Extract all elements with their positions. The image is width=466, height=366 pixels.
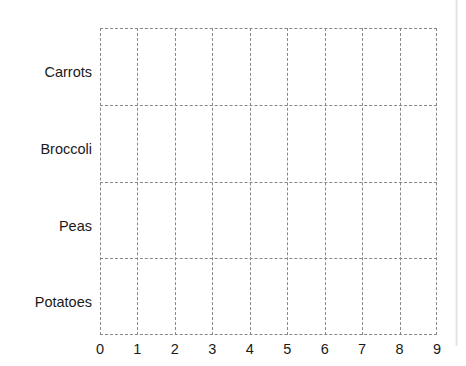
plot-area [100, 28, 437, 335]
x-tick-label-9: 9 [417, 340, 457, 358]
x-tick-label-2: 2 [155, 340, 195, 358]
x-tick-label-0: 0 [80, 340, 120, 358]
x-tick-label-1: 1 [117, 340, 157, 358]
right-edge-scroll-strip[interactable] [455, 0, 458, 346]
bar-track-potatoes [100, 258, 437, 335]
x-tick-label-4: 4 [230, 340, 270, 358]
y-tick-label-peas: Peas [0, 218, 92, 234]
x-tick-label-5: 5 [267, 340, 307, 358]
x-tick-label-8: 8 [380, 340, 420, 358]
y-tick-label-carrots: Carrots [0, 64, 92, 80]
x-tick-label-7: 7 [342, 340, 382, 358]
bar-track-carrots [100, 28, 437, 105]
bar-track-broccoli [100, 105, 437, 182]
bar-chart: Carrots Broccoli Peas Potatoes [0, 0, 466, 366]
bar-track-peas [100, 182, 437, 259]
y-tick-label-potatoes: Potatoes [0, 294, 92, 310]
x-tick-label-3: 3 [192, 340, 232, 358]
y-tick-label-broccoli: Broccoli [0, 141, 92, 157]
x-tick-label-6: 6 [305, 340, 345, 358]
